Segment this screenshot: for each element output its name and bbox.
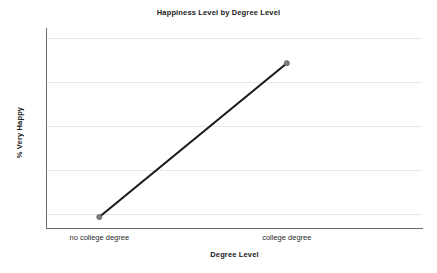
x-tick-label-no-college-degree: no college degree <box>39 233 159 242</box>
gridline <box>47 82 422 83</box>
x-axis-title: Degree Level <box>47 250 422 259</box>
chart-container: Happiness Level by Degree Level % Very H… <box>0 0 437 273</box>
x-axis-line <box>46 228 423 229</box>
gridline <box>47 126 422 127</box>
y-axis-line <box>46 28 47 228</box>
x-tick-label-college-degree: college degree <box>227 233 347 242</box>
gridline <box>47 170 422 171</box>
gridline <box>47 214 422 215</box>
gridline <box>47 38 422 39</box>
chart-title: Happiness Level by Degree Level <box>0 8 437 17</box>
plot-area <box>47 28 422 228</box>
y-axis-title: % Very Happy <box>15 78 24 188</box>
